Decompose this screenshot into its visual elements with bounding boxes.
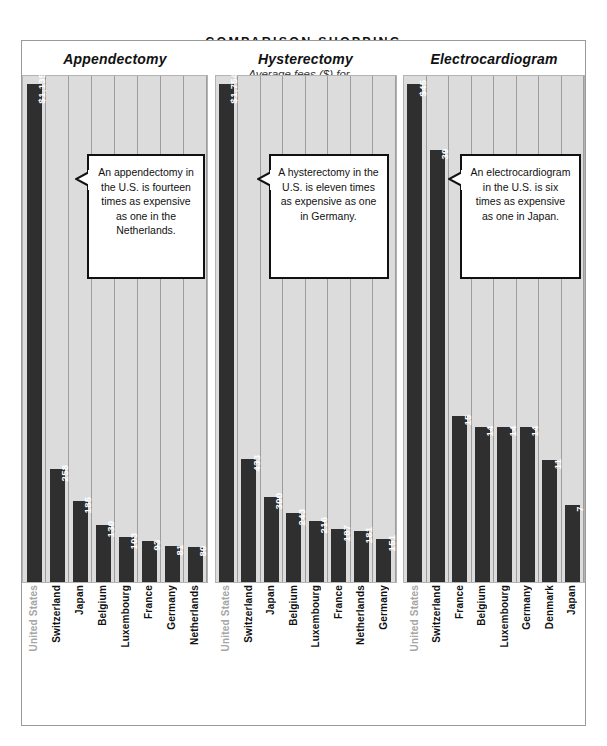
bar[interactable]: 81 <box>165 546 180 582</box>
bar-slot: 185 <box>69 76 92 582</box>
callout-bubble: An appendectomy in the U.S. is fourteen … <box>87 154 205 279</box>
axis-label: Germany <box>521 585 532 634</box>
chart-panel: Electrocardiogram$453915141414117An elec… <box>403 48 585 703</box>
bar-slot: 14 <box>472 76 495 582</box>
bar[interactable]: 15 <box>452 416 467 582</box>
bar-slot: 181 <box>351 76 374 582</box>
axis-tick: Germany <box>516 585 539 703</box>
axis-label: Luxembourg <box>310 585 321 652</box>
axis-tick: Switzerland <box>45 585 68 703</box>
bar[interactable]: 14 <box>475 427 490 582</box>
callout-tail-icon <box>75 170 89 190</box>
bar[interactable]: 80 <box>188 547 203 582</box>
chart-panel: Appendectomy$1,135258185130103938180An a… <box>22 48 208 703</box>
axis-tick: United States <box>22 585 45 703</box>
axis-tick: Luxembourg <box>493 585 516 703</box>
axis-tick: Japan <box>68 585 91 703</box>
bar[interactable]: 14 <box>497 427 512 582</box>
bar[interactable]: 103 <box>119 537 134 582</box>
chart-title: Electrocardiogram <box>403 48 585 70</box>
axis-tick: Luxembourg <box>305 585 328 703</box>
callout-bubble: An electrocardiogram in the U.S. is six … <box>460 154 581 279</box>
axis-label: France <box>143 585 154 623</box>
bar[interactable]: 185 <box>73 501 88 582</box>
chart-title: Appendectomy <box>22 48 208 70</box>
bar-slot: 103 <box>115 76 138 582</box>
axis-tick: Japan <box>260 585 283 703</box>
callout-text: An electrocardiogram in the U.S. is six … <box>471 166 571 222</box>
bar-slot: 433 <box>238 76 261 582</box>
axis-label: Japan <box>265 585 276 619</box>
bar[interactable]: $45 <box>407 84 422 582</box>
bar[interactable]: 151 <box>376 539 391 582</box>
axis-tick: United States <box>215 585 238 703</box>
axis-label: Germany <box>378 585 389 634</box>
axis-tick: United States <box>403 585 426 703</box>
chart-title: Hysterectomy <box>215 48 397 70</box>
axis-label: Belgium <box>97 585 108 630</box>
axis-tick: Netherlands <box>183 585 206 703</box>
axis-label: Japan <box>566 585 577 619</box>
bar[interactable]: 39 <box>430 150 445 582</box>
bar-slot: 7 <box>562 76 585 582</box>
plot-area: $1,754433300243216187181151A hysterectom… <box>215 75 397 583</box>
axis-tick: France <box>327 585 350 703</box>
callout-text: An appendectomy in the U.S. is fourteen … <box>98 166 194 236</box>
axis-label: Switzerland <box>243 585 254 647</box>
bar-slot: 187 <box>328 76 351 582</box>
bar-slot: 300 <box>261 76 284 582</box>
bar[interactable]: 93 <box>142 541 157 582</box>
bar[interactable]: 243 <box>286 513 301 582</box>
axis-label: France <box>333 585 344 623</box>
axis-tick: Belgium <box>471 585 494 703</box>
axis-tick: France <box>137 585 160 703</box>
callout-text: A hysterectomy in the U.S. is eleven tim… <box>278 166 378 222</box>
bar[interactable]: 130 <box>96 525 111 582</box>
axis-tick: Switzerland <box>237 585 260 703</box>
bar-value-label: 7 <box>572 506 587 512</box>
bar-slot: 14 <box>517 76 540 582</box>
axis-label: Switzerland <box>51 585 62 647</box>
bar[interactable]: 181 <box>354 531 369 582</box>
bar[interactable]: $1,135 <box>27 84 42 582</box>
axis-tick: Netherlands <box>350 585 373 703</box>
bar-slot: $45 <box>404 76 427 582</box>
bar[interactable]: 433 <box>241 459 256 582</box>
bar[interactable]: $1,754 <box>219 84 234 582</box>
bar[interactable]: 7 <box>565 505 580 582</box>
bar[interactable]: 258 <box>50 469 65 582</box>
bar-slot: 11 <box>539 76 562 582</box>
bar[interactable]: 216 <box>309 521 324 582</box>
axis-label: Netherlands <box>355 585 366 649</box>
axis-label: Belgium <box>476 585 487 630</box>
plot-area: $1,135258185130103938180An appendectomy … <box>22 75 208 583</box>
bar[interactable]: 300 <box>264 497 279 582</box>
axis-label: United States <box>28 585 39 656</box>
axis-label: Switzerland <box>431 585 442 647</box>
bar-slot: 258 <box>46 76 69 582</box>
bar-slot: 81 <box>161 76 184 582</box>
chart-panel: Hysterectomy$1,754433300243216187181151A… <box>215 48 397 703</box>
bar[interactable]: 187 <box>331 529 346 582</box>
axis-tick: Switzerland <box>426 585 449 703</box>
bar-slot: 216 <box>306 76 329 582</box>
axis-tick: Germany <box>160 585 183 703</box>
x-axis: United StatesSwitzerlandJapanBelgiumLuxe… <box>215 585 397 703</box>
bar-value-label: 151 <box>384 535 399 552</box>
bar-slot: $1,754 <box>216 76 239 582</box>
axis-label: United States <box>409 585 420 656</box>
bar[interactable]: 11 <box>542 460 557 582</box>
bar-slot: 243 <box>283 76 306 582</box>
bar-slot: $1,135 <box>23 76 46 582</box>
axis-tick: Belgium <box>282 585 305 703</box>
axis-tick: Belgium <box>91 585 114 703</box>
bar-slot: 151 <box>373 76 396 582</box>
axis-label: Belgium <box>288 585 299 630</box>
callout-bubble: A hysterectomy in the U.S. is eleven tim… <box>269 154 389 279</box>
bar-value-label: 80 <box>195 545 210 556</box>
axis-label: Luxembourg <box>499 585 510 652</box>
axis-label: Luxembourg <box>120 585 131 652</box>
callout-tail-icon <box>448 170 462 190</box>
bar[interactable]: 14 <box>520 427 535 582</box>
axis-tick: France <box>448 585 471 703</box>
